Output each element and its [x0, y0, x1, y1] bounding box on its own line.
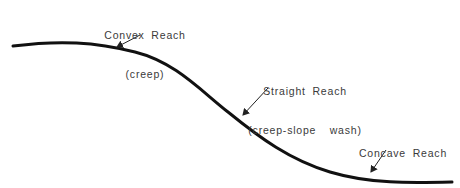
convex-reach-name: Convex Reach	[100, 29, 190, 42]
convex-reach-label: Convex Reach (creep)	[100, 3, 190, 94]
convex-reach-process: (creep)	[100, 68, 190, 81]
concave-reach-label: Concave Reach (slopewash)	[348, 121, 458, 188]
concave-reach-process: (slopewash)	[348, 186, 458, 188]
concave-reach-name: Concave Reach	[348, 147, 458, 160]
straight-reach-name: Straight Reach	[240, 85, 370, 98]
